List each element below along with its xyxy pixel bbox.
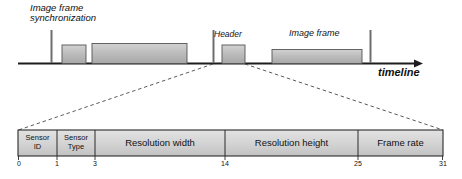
field-label-sensor-type-line2: Type [57, 143, 95, 152]
bit-number-31: 31 [436, 160, 450, 167]
sync-label: Image frame synchronization [30, 3, 96, 23]
sync-label-line2: synchronization [30, 13, 96, 23]
bit-number-3: 3 [88, 160, 102, 167]
image-frame-block-label: Image frame [289, 29, 340, 38]
field-label-sensor-id-line2: ID [18, 143, 57, 152]
figure-container: Image frame synchronization Header Image… [0, 0, 462, 179]
bit-number-25: 25 [351, 160, 365, 167]
timeline-axis-label: timeline [378, 67, 420, 79]
bit-number-0: 0 [12, 160, 26, 167]
header-block-label: Header [214, 30, 242, 39]
figure-svg [0, 0, 462, 179]
connector-line-left [19, 64, 214, 130]
image-frame-block-2 [272, 50, 362, 64]
field-label-sensor-id: Sensor ID [18, 134, 57, 151]
field-label-sensor-type: Sensor Type [57, 134, 95, 151]
field-label-frame-rate: Frame rate [358, 138, 443, 149]
timeline-blocks-group [62, 44, 362, 64]
bit-number-1: 1 [50, 160, 64, 167]
header-block-1 [62, 45, 86, 64]
field-label-resolution-width: Resolution width [95, 138, 225, 149]
image-frame-block-1 [92, 44, 187, 64]
field-label-resolution-height: Resolution height [225, 138, 358, 149]
bit-number-14: 14 [218, 160, 232, 167]
header-block-2 [222, 45, 245, 64]
